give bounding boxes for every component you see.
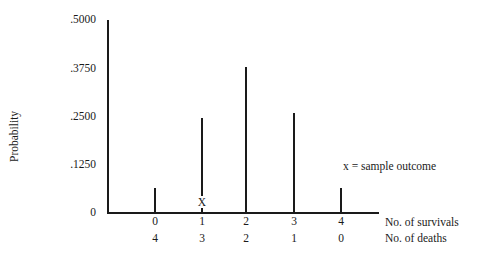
sample-outcome-marker: X [196,196,208,208]
bar-survivals-0 [154,188,156,213]
x-tick-deaths-4: 4 [145,232,165,244]
x-tick-deaths-3: 3 [192,232,212,244]
x-tick-survivals-1: 1 [192,215,212,227]
x-tick-survivals-0: 0 [145,215,165,227]
bar-survivals-3 [293,113,295,213]
deaths-row-label: No. of deaths [385,232,447,244]
survivals-row-label: No. of survivals [385,216,459,228]
x-tick-survivals-3: 3 [284,215,304,227]
y-axis [107,20,109,214]
sample-outcome-legend: x = sample outcome [343,160,436,172]
y-tick-0.5: .5000 [46,13,96,25]
bar-survivals-4 [340,188,342,213]
y-tick-0.375: .3750 [46,62,96,74]
x-tick-survivals-2: 2 [236,215,256,227]
x-tick-deaths-2: 2 [236,232,256,244]
x-tick-survivals-4: 4 [331,215,351,227]
y-tick-0: 0 [46,206,96,218]
y-axis-label: Probability [8,111,20,162]
x-tick-deaths-0: 0 [331,232,351,244]
x-tick-deaths-1: 1 [284,232,304,244]
y-tick-0.25: .2500 [46,110,96,122]
bar-survivals-2 [245,67,247,213]
y-tick-0.125: .1250 [46,158,96,170]
x-axis [107,212,379,214]
